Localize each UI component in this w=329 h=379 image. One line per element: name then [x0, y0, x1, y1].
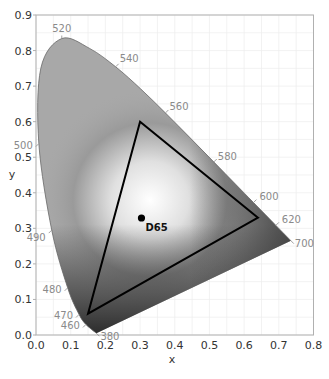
y-tick-label: 0.0 — [15, 329, 33, 342]
d65-white-point — [138, 214, 145, 221]
x-axis-ticks: 0.00.10.20.30.40.50.60.70.8 — [27, 339, 322, 352]
wavelength-label-700: 700 — [295, 238, 314, 249]
x-tick-label: 0.2 — [97, 339, 115, 352]
wavelength-label-560: 560 — [169, 101, 188, 112]
x-axis-title: x — [169, 353, 176, 366]
y-tick-label: 0.7 — [15, 80, 33, 93]
y-axis-ticks: 0.00.10.20.30.40.50.60.70.80.9 — [15, 9, 37, 342]
wavelength-label-470: 470 — [54, 310, 73, 321]
wavelength-label-600: 600 — [259, 191, 278, 202]
y-tick-label: 0.8 — [15, 45, 33, 58]
cie-chromaticity-chart: 380460470480490500520540560580600620700 … — [0, 0, 329, 379]
y-tick-label: 0.6 — [15, 116, 33, 129]
wavelength-label-500: 500 — [14, 140, 33, 151]
wavelength-label-540: 540 — [120, 53, 139, 64]
wavelength-label-480: 480 — [43, 284, 62, 295]
x-tick-label: 0.3 — [131, 339, 149, 352]
x-tick-label: 0.6 — [235, 339, 253, 352]
y-tick-label: 0.5 — [15, 151, 33, 164]
x-tick-label: 0.4 — [166, 339, 184, 352]
x-tick-label: 0.7 — [270, 339, 288, 352]
y-tick-label: 0.1 — [15, 293, 33, 306]
y-tick-label: 0.3 — [15, 222, 33, 235]
wavelength-label-520: 520 — [52, 23, 71, 34]
wavelength-label-580: 580 — [218, 151, 237, 162]
y-axis-title: y — [9, 168, 16, 181]
x-tick-label: 0.5 — [201, 339, 219, 352]
wavelength-label-620: 620 — [282, 214, 301, 225]
x-tick-label: 0.8 — [305, 339, 323, 352]
wavelength-label-460: 460 — [61, 320, 80, 331]
y-tick-label: 0.2 — [15, 258, 33, 271]
x-tick-label: 0.1 — [62, 339, 80, 352]
d65-label: D65 — [145, 222, 167, 233]
y-tick-label: 0.4 — [15, 187, 33, 200]
y-tick-label: 0.9 — [15, 9, 33, 22]
